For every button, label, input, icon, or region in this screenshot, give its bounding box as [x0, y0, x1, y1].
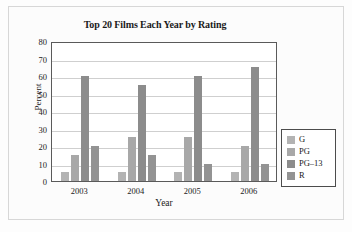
y-tick-label: 0 — [17, 178, 47, 186]
y-tick-label: 20 — [17, 143, 47, 151]
y-tick-label: 50 — [17, 91, 47, 99]
legend-item: R — [287, 170, 331, 181]
y-tick-label: 40 — [17, 108, 47, 116]
y-tick-label: 30 — [17, 126, 47, 134]
legend-item: PG — [287, 146, 331, 157]
y-tick-label: 10 — [17, 161, 47, 169]
bar — [61, 172, 69, 181]
plot-area — [51, 42, 277, 182]
legend-item: G — [287, 134, 331, 145]
bar — [174, 172, 182, 181]
legend-swatch-icon — [287, 172, 295, 180]
bar — [261, 164, 269, 182]
legend-swatch-icon — [287, 136, 295, 144]
chart-legend: GPGPG–13R — [281, 129, 336, 187]
bar — [231, 172, 239, 181]
chart-title: Top 20 Films Each Year by Rating — [40, 19, 270, 30]
bar — [138, 85, 146, 181]
legend-label: G — [299, 135, 305, 144]
x-tick-label: 2006 — [229, 186, 269, 196]
legend-label: PG — [299, 147, 310, 156]
bar — [91, 146, 99, 181]
bar — [241, 146, 249, 181]
bar — [148, 155, 156, 181]
legend-label: R — [299, 171, 305, 180]
legend-swatch-icon — [287, 148, 295, 156]
bar — [251, 67, 259, 181]
x-tick-label: 2004 — [116, 186, 156, 196]
bar — [81, 76, 89, 181]
bar — [71, 155, 79, 181]
bar — [118, 172, 126, 181]
y-tick-label: 60 — [17, 73, 47, 81]
bar — [184, 137, 192, 181]
bar — [128, 137, 136, 181]
bar — [204, 164, 212, 182]
x-tick-label: 2003 — [59, 186, 99, 196]
chart-figure: Top 20 Films Each Year by Rating Percent… — [0, 0, 352, 232]
legend-label: PG–13 — [299, 159, 323, 168]
legend-swatch-icon — [287, 160, 295, 168]
x-tick-label: 2005 — [172, 186, 212, 196]
x-axis-label: Year — [51, 198, 277, 208]
y-tick-label: 80 — [17, 38, 47, 46]
legend-item: PG–13 — [287, 158, 331, 169]
y-tick-label: 70 — [17, 56, 47, 64]
bars-layer — [52, 43, 276, 181]
bar — [194, 76, 202, 181]
